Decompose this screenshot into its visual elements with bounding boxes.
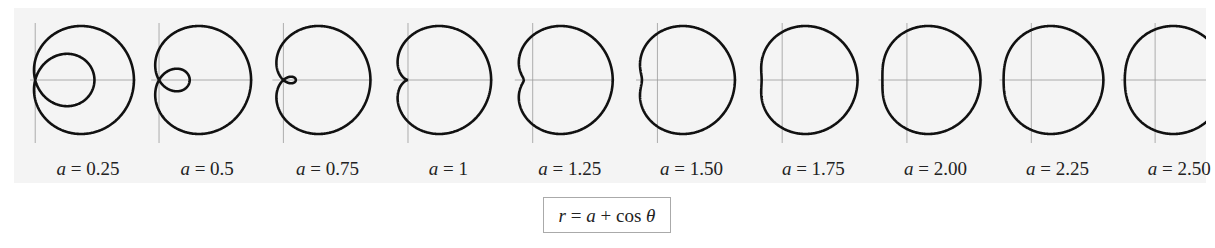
curve-label: a = 1 xyxy=(393,158,503,180)
label-value: = 1 xyxy=(438,158,468,179)
label-value: = 0.5 xyxy=(190,158,234,179)
label-variable: a xyxy=(782,158,792,179)
label-variable: a xyxy=(180,158,190,179)
label-value: = 2.50 xyxy=(1157,158,1210,179)
label-value: = 0.75 xyxy=(305,158,358,179)
formula-theta: θ xyxy=(646,205,655,226)
formula-r: r xyxy=(559,205,566,226)
curve-label: a = 2.00 xyxy=(880,158,990,180)
formula-box: r = a + cos θ xyxy=(543,197,671,233)
curve-label: a = 1.25 xyxy=(515,158,625,180)
label-value: = 1.25 xyxy=(548,158,601,179)
curve-label: a = 1.50 xyxy=(636,158,746,180)
curve-label: a = 2.25 xyxy=(1002,158,1112,180)
label-variable: a xyxy=(56,158,66,179)
chart-panel: a = 0.25a = 0.5a = 0.75a = 1a = 1.25a = … xyxy=(14,8,1206,183)
curve-label: a = 0.5 xyxy=(152,158,262,180)
label-value: = 1.75 xyxy=(791,158,844,179)
label-value: = 2.00 xyxy=(913,158,966,179)
limacon-plots xyxy=(14,8,1206,183)
label-value: = 0.25 xyxy=(66,158,119,179)
curve-label: a = 0.25 xyxy=(33,158,143,180)
label-value: = 1.50 xyxy=(669,158,722,179)
label-variable: a xyxy=(296,158,306,179)
label-value: = 2.25 xyxy=(1035,158,1088,179)
label-variable: a xyxy=(429,158,439,179)
curve-label: a = 0.75 xyxy=(272,158,382,180)
curve-label: a = 2.50 xyxy=(1124,158,1215,180)
label-variable: a xyxy=(1148,158,1158,179)
curve-label: a = 1.75 xyxy=(758,158,868,180)
label-variable: a xyxy=(538,158,548,179)
formula-a: a xyxy=(586,205,596,226)
